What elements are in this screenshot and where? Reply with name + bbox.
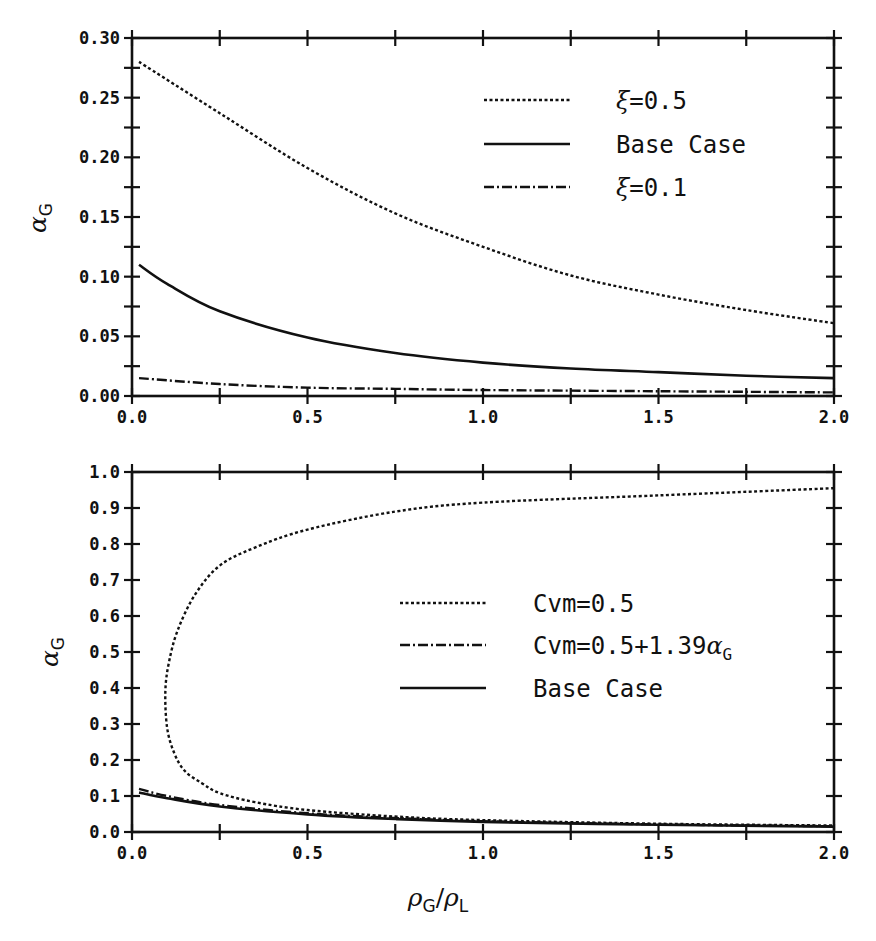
x-tick-label: 1.5	[643, 407, 674, 427]
x-tick-label: 1.5	[643, 843, 674, 863]
y-tick-label: 0.15	[79, 207, 120, 227]
bottom-plot: 0.00.51.01.52.00.00.10.20.30.40.50.60.70…	[89, 462, 849, 863]
y-tick-label: 0.9	[89, 498, 120, 518]
y-tick-label: 0.7	[89, 570, 120, 590]
y-tick-label: 0.4	[89, 678, 120, 698]
x-tick-label: 0.0	[117, 407, 148, 427]
y-tick-label: 0.6	[89, 606, 120, 626]
series-line-cvm-0-5	[165, 488, 834, 825]
legend: Cvm=0.5Cvm=0.5+1.39αGBase Case	[400, 590, 732, 703]
y-tick-label: 0.10	[79, 267, 120, 287]
y-tick-label: 1.0	[89, 462, 120, 482]
series-line-cvm-0-5-1-39-g	[139, 789, 834, 826]
x-tick-label: 2.0	[819, 407, 850, 427]
y-tick-label: 0.30	[79, 28, 120, 48]
legend-label: Base Case	[616, 131, 746, 159]
x-tick-label: 1.0	[468, 407, 499, 427]
x-axis-title: ρG/ρL	[407, 883, 469, 916]
legend-label: Cvm=0.5	[533, 590, 634, 618]
y-tick-label: 0.20	[79, 147, 120, 167]
series-line--0-1	[139, 378, 834, 392]
plot-frame	[132, 38, 834, 396]
y-tick-label: 0.00	[79, 386, 120, 406]
y-tick-label: 0.0	[89, 822, 120, 842]
legend: ξ=0.5Base Caseξ=0.1	[484, 87, 746, 202]
y-tick-label: 0.05	[79, 326, 120, 346]
series-line-base-case	[139, 792, 834, 826]
top-y-axis-title: αG	[23, 203, 56, 233]
legend-label: ξ=0.5	[616, 87, 687, 115]
legend-label: Base Case	[533, 675, 663, 703]
x-tick-label: 2.0	[819, 843, 850, 863]
legend-label: ξ=0.1	[616, 174, 687, 202]
x-tick-label: 0.5	[292, 843, 323, 863]
y-tick-label: 0.25	[79, 88, 120, 108]
y-tick-label: 0.8	[89, 534, 120, 554]
series-line-base-case	[139, 265, 834, 378]
y-tick-label: 0.5	[89, 642, 120, 662]
figure: 0.00.51.01.52.00.000.050.100.150.200.250…	[0, 0, 876, 941]
x-tick-label: 0.0	[117, 843, 148, 863]
top-plot: 0.00.51.01.52.00.000.050.100.150.200.250…	[79, 28, 849, 427]
legend-label: Cvm=0.5+1.39αG	[533, 632, 732, 664]
x-tick-label: 1.0	[468, 843, 499, 863]
x-tick-label: 0.5	[292, 407, 323, 427]
bottom-y-axis-title: αG	[35, 637, 68, 667]
y-tick-label: 0.3	[89, 714, 120, 734]
y-tick-label: 0.2	[89, 750, 120, 770]
y-tick-label: 0.1	[89, 786, 120, 806]
